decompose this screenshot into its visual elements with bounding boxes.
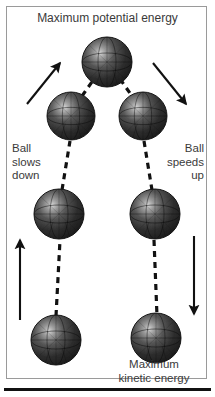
ball-upper-left	[47, 92, 95, 140]
label-maximum-kinetic-energy: Maximum kinetic energy	[103, 358, 205, 385]
label-maximum-potential-energy: Maximum potential energy	[0, 12, 215, 26]
bottom-rule	[4, 388, 211, 391]
ball-bottom-left	[31, 315, 81, 365]
diagram-canvas	[0, 0, 215, 397]
physics-diagram-figure: Maximum potential energy Ball slows down…	[0, 0, 215, 397]
ball-upper-right	[119, 92, 167, 140]
ball-mid-left	[34, 189, 84, 239]
label-ball-slows-down: Ball slows down	[12, 142, 70, 183]
label-ball-speeds-up: Ball speeds up	[144, 142, 204, 183]
ball-bottom-right	[131, 313, 181, 363]
ball-apex	[82, 37, 132, 87]
ball-mid-right	[130, 189, 180, 239]
